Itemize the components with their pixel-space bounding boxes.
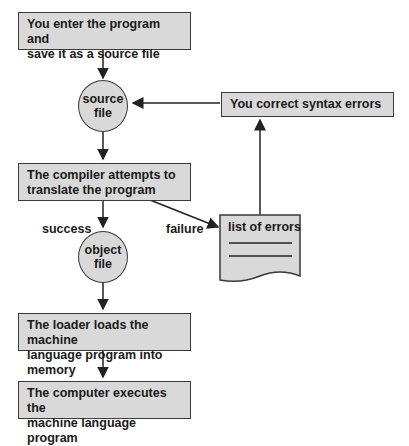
label-success: success [42, 222, 91, 236]
step-compile: The compiler attempts to translate the p… [18, 163, 191, 201]
source-file-node: source file [78, 80, 128, 132]
node-text: file [83, 106, 124, 120]
step-text: You enter the program and [27, 17, 182, 47]
node-text: source [83, 92, 124, 106]
step-text: save it as a source file [27, 47, 182, 62]
node-text: object [85, 243, 122, 257]
step-correct-errors: You correct syntax errors [221, 92, 394, 117]
errors-document-label: list of errors [228, 220, 301, 234]
step-text: machine language program [27, 416, 182, 446]
step-text: The loader loads the machine [27, 318, 182, 348]
step-text: The compiler attempts to [27, 168, 182, 183]
step-text: translate the program [27, 183, 182, 198]
step-execute: The computer executes the machine langua… [18, 381, 191, 419]
object-file-node: object file [78, 231, 128, 283]
node-text: file [85, 257, 122, 271]
step-text: language program into memory [27, 348, 182, 378]
label-failure: failure [166, 222, 204, 236]
step-loader: The loader loads the machine language pr… [18, 313, 191, 351]
step-text: You correct syntax errors [230, 97, 385, 112]
step-enter-program: You enter the program and save it as a s… [18, 12, 191, 50]
step-text: The computer executes the [27, 386, 182, 416]
